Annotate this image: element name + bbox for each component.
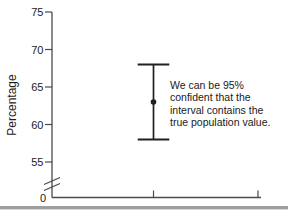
annotation-line: We can be 95% xyxy=(170,79,288,91)
annotation-line: confident that the xyxy=(170,91,288,103)
annotation-line: true population value. xyxy=(170,116,288,128)
y-tick-label: 55 xyxy=(31,156,43,168)
y-tick-label: 60 xyxy=(31,119,43,131)
y-tick-label: 75 xyxy=(31,6,43,18)
y-axis-title: Percentage xyxy=(5,74,19,136)
y-tick-label: 70 xyxy=(31,44,43,56)
annotation-line: interval contains the xyxy=(170,104,288,116)
origin-label: 0 xyxy=(40,192,46,204)
figure: 75706560550Percentage We can be 95% conf… xyxy=(0,0,288,214)
page-edge-line xyxy=(0,206,288,210)
point-estimate-marker xyxy=(151,99,157,105)
annotation-text: We can be 95% confident that the interva… xyxy=(170,79,288,129)
y-tick-label: 65 xyxy=(31,81,43,93)
